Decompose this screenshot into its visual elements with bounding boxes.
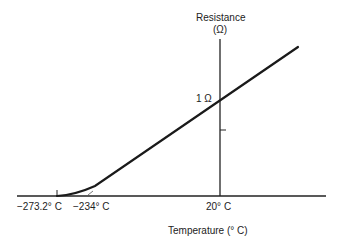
y-tick-label-1-ohm: 1 Ω: [196, 93, 212, 104]
x-tick-label-absolute-zero: −273.2° C: [17, 201, 62, 212]
x-tick-label-minus-234: −234° C: [73, 201, 110, 212]
y-axis-label: Resistance: [196, 12, 244, 23]
x-tick-label-20: 20° C: [206, 201, 231, 212]
x-axis-label: Temperature (° C): [168, 225, 248, 236]
tick-minus-234: [88, 191, 93, 195]
y-axis-unit: (Ω): [196, 24, 244, 35]
resistance-curve: [57, 47, 298, 196]
